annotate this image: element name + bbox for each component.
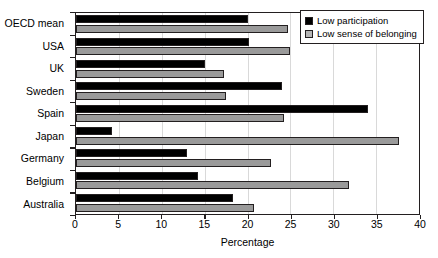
value-axis-label: 5 bbox=[115, 219, 121, 230]
category-axis: OECD meanUSAUKSwedenSpainJapanGermanyBel… bbox=[0, 12, 70, 215]
category-label: Spain bbox=[0, 102, 70, 125]
bar-group bbox=[76, 169, 419, 191]
bar bbox=[76, 105, 368, 113]
value-axis-label: 15 bbox=[199, 219, 211, 230]
bar bbox=[76, 47, 290, 55]
category-label: Belgium bbox=[0, 170, 70, 193]
legend-swatch-icon bbox=[305, 30, 313, 38]
legend-label: Low sense of belonging bbox=[317, 29, 417, 39]
bar bbox=[76, 82, 282, 90]
category-label: Germany bbox=[0, 147, 70, 170]
value-axis-labels: 0510152025303540 bbox=[75, 219, 420, 233]
bar-group bbox=[76, 125, 419, 147]
legend-item: Low participation bbox=[305, 14, 417, 27]
bar bbox=[76, 60, 205, 68]
bar bbox=[76, 92, 226, 100]
bar bbox=[76, 149, 187, 157]
bar bbox=[76, 204, 254, 212]
value-axis-label: 20 bbox=[242, 219, 254, 230]
category-label: Australia bbox=[0, 193, 70, 216]
bar bbox=[76, 181, 349, 189]
category-label: OECD mean bbox=[0, 12, 70, 35]
bar-group bbox=[76, 147, 419, 169]
value-axis-label: 10 bbox=[155, 219, 167, 230]
bar bbox=[76, 137, 399, 145]
category-label: Sweden bbox=[0, 80, 70, 103]
bar bbox=[76, 38, 249, 46]
value-axis-label: 25 bbox=[285, 219, 297, 230]
chart-legend: Low participationLow sense of belonging bbox=[300, 10, 424, 44]
bar bbox=[76, 159, 271, 167]
legend-swatch-icon bbox=[305, 17, 313, 25]
category-label: UK bbox=[0, 57, 70, 80]
value-axis-label: 30 bbox=[328, 219, 340, 230]
bar bbox=[76, 15, 248, 23]
bar bbox=[76, 194, 233, 202]
bar bbox=[76, 114, 284, 122]
category-label: Japan bbox=[0, 125, 70, 148]
bar-group bbox=[76, 80, 419, 102]
bar-group bbox=[76, 58, 419, 80]
value-axis-label: 35 bbox=[371, 219, 383, 230]
category-label: USA bbox=[0, 35, 70, 58]
bar bbox=[76, 172, 198, 180]
bar bbox=[76, 25, 288, 33]
bar bbox=[76, 127, 112, 135]
x-axis-title: Percentage bbox=[75, 236, 420, 248]
legend-item: Low sense of belonging bbox=[305, 27, 417, 40]
value-axis-label: 40 bbox=[414, 219, 426, 230]
legend-label: Low participation bbox=[317, 16, 388, 26]
bar-group bbox=[76, 102, 419, 124]
value-axis-label: 0 bbox=[72, 219, 78, 230]
bar-group bbox=[76, 192, 419, 214]
bar-chart: OECD meanUSAUKSwedenSpainJapanGermanyBel… bbox=[0, 0, 438, 258]
bar bbox=[76, 70, 224, 78]
